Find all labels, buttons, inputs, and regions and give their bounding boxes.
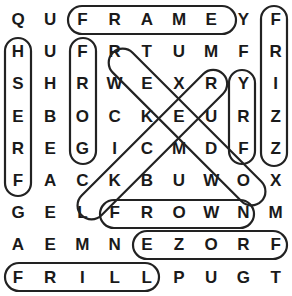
found-word-outlines [0,0,292,296]
outline-frame [68,6,236,34]
outline-yrf [229,70,255,164]
outline-ezorf [133,231,287,259]
outline-frizz [261,6,287,166]
outline-hserf [5,38,31,196]
outline-frog [70,38,96,164]
outline-frill [5,263,159,291]
outline-diagonal-down [103,43,271,211]
outline-frown [100,200,254,228]
